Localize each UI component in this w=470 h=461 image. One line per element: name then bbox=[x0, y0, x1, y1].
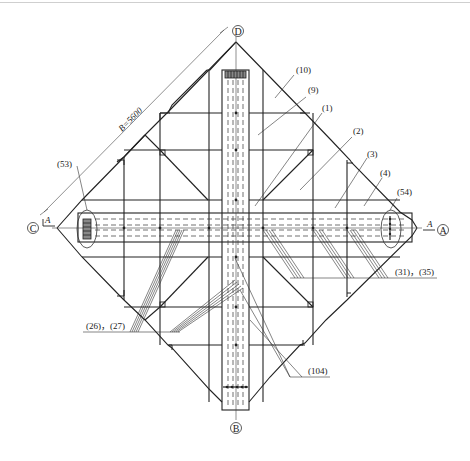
hatched-bars bbox=[130, 230, 388, 332]
section-label-left: A bbox=[44, 215, 51, 225]
axis-label-B: B bbox=[233, 423, 240, 434]
axis-label-C: C bbox=[30, 223, 37, 234]
callout-2: (2) bbox=[353, 126, 364, 136]
callout-4: (4) bbox=[380, 168, 391, 178]
callout-31-35: (31)，(35) bbox=[395, 267, 434, 277]
dimension-label: B=5600 bbox=[116, 105, 144, 133]
callout-9: (9) bbox=[308, 85, 319, 95]
callout-3: (3) bbox=[367, 149, 378, 159]
hatched-bar-lower bbox=[170, 280, 243, 332]
callout-26-27: (26)，(27) bbox=[86, 321, 125, 331]
axis-centerlines bbox=[52, 36, 422, 420]
hatched-bar-right-2 bbox=[313, 230, 354, 278]
axis-label-D: D bbox=[234, 26, 241, 37]
hatched-bar-left bbox=[130, 230, 184, 332]
callout-104: (104) bbox=[308, 366, 328, 376]
callout-54: (54) bbox=[397, 187, 412, 197]
hatched-bar-right-1 bbox=[263, 230, 304, 278]
callout-53: (53) bbox=[57, 159, 72, 169]
callout-10: (10) bbox=[296, 65, 311, 75]
section-label-right: A bbox=[426, 219, 433, 229]
callout-1: (1) bbox=[322, 103, 333, 113]
axis-label-A: A bbox=[439, 225, 447, 236]
foundation-drawing: B=5600 A A D C A B (10) (9) (1) (2) (3) … bbox=[0, 0, 470, 461]
